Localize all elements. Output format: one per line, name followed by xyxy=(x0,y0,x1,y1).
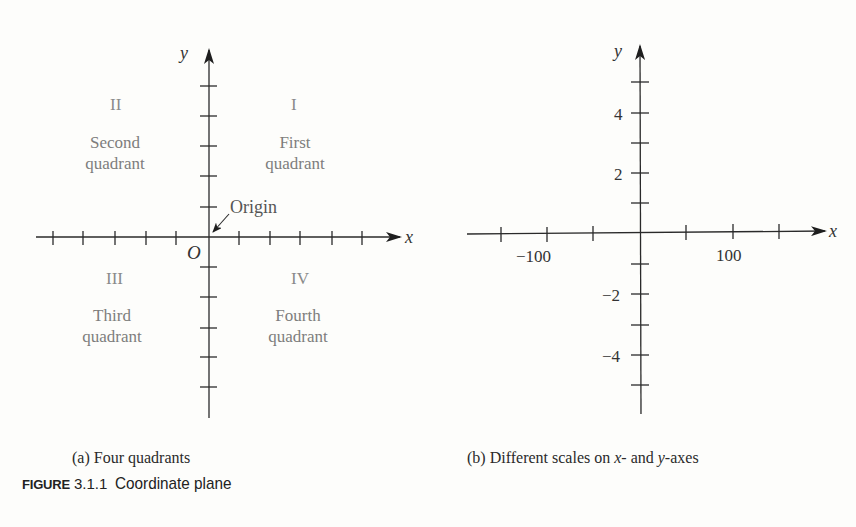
quadrant-i-line2: quadrant xyxy=(250,153,340,174)
quadrant-ii-name: Second quadrant xyxy=(70,132,160,174)
x-tick-label-neg100: −100 xyxy=(516,248,551,265)
y-tick-label-neg4: −4 xyxy=(602,348,620,365)
origin-pointer-arrow xyxy=(213,214,229,232)
origin-o-label: O xyxy=(187,243,201,262)
quadrant-ii-line2: quadrant xyxy=(70,153,160,174)
quadrant-iii-numeral: III xyxy=(106,270,123,287)
panel-b-y-axis-label: y xyxy=(614,42,622,60)
panel-a-axes xyxy=(36,50,400,418)
quadrant-ii-line1: Second xyxy=(70,132,160,153)
panel-b-caption: (b) Different scales on x- and y-axes xyxy=(467,450,699,466)
figure-caption: FIGURE 3.1.1 Coordinate plane xyxy=(22,475,245,492)
figure-label: FIGURE xyxy=(22,477,70,492)
quadrant-iv-line2: quadrant xyxy=(253,326,343,347)
quadrant-i-line1: First xyxy=(250,132,340,153)
panel-b-caption-y: y xyxy=(658,449,665,466)
figure-number: 3.1.1 xyxy=(74,475,107,492)
panel-a-x-axis-label: x xyxy=(405,228,413,246)
panel-b-y-axis xyxy=(640,46,641,414)
figure-title: Coordinate plane xyxy=(115,475,232,492)
y-tick-label-2: 2 xyxy=(614,166,623,183)
quadrant-iii-line2: quadrant xyxy=(67,326,157,347)
quadrant-i-name: First quadrant xyxy=(250,132,340,174)
panel-b-caption-suffix: -axes xyxy=(665,449,699,466)
quadrant-iii-name: Third quadrant xyxy=(67,305,157,347)
panel-a-caption: (a) Four quadrants xyxy=(72,450,190,466)
quadrant-i-numeral: I xyxy=(291,96,297,113)
y-tick-label-neg2: −2 xyxy=(602,287,620,304)
quadrant-iv-numeral: IV xyxy=(291,270,309,287)
y-tick-label-4: 4 xyxy=(614,106,623,123)
panel-b-caption-prefix: (b) Different scales on xyxy=(467,449,614,466)
panel-a-y-axis-label: y xyxy=(180,44,188,62)
quadrant-iii-line1: Third xyxy=(67,305,157,326)
panel-a-x-ticks xyxy=(53,231,362,245)
panel-b-x-axis-label: x xyxy=(829,222,837,240)
quadrant-iv-name: Fourth quadrant xyxy=(253,305,343,347)
quadrant-iv-line1: Fourth xyxy=(253,305,343,326)
x-tick-label-100: 100 xyxy=(716,247,742,264)
quadrant-ii-numeral: II xyxy=(110,96,121,113)
panel-b-axes xyxy=(467,46,825,414)
panel-b-x-axis xyxy=(467,231,825,234)
panel-b-caption-mid: - and xyxy=(621,449,657,466)
origin-annotation: Origin xyxy=(230,198,277,216)
